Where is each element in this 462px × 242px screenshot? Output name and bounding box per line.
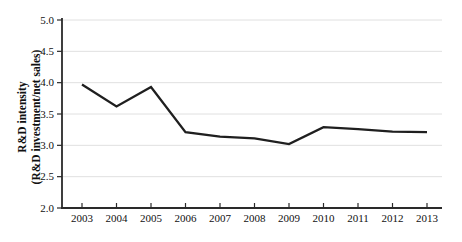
y-tick-label: 3.0 <box>40 139 54 151</box>
x-tick-label: 2003 <box>71 212 94 224</box>
y-tick-label: 5.0 <box>40 14 54 26</box>
x-tick-label: 2006 <box>175 212 198 224</box>
y-tick-label: 3.5 <box>40 108 54 120</box>
y-tick-label: 4.0 <box>40 76 54 88</box>
y-tick-label: 2.5 <box>40 170 54 182</box>
y-tick-label: 4.5 <box>40 45 54 57</box>
x-tick-label: 2007 <box>209 212 232 224</box>
y-axis-tick-labels: 5.04.54.03.53.02.52.0 <box>40 14 54 214</box>
x-tick-label: 2012 <box>382 212 404 224</box>
line-chart: 5.04.54.03.53.02.52.0 200320042005200620… <box>0 0 462 242</box>
x-tick-label: 2009 <box>278 212 301 224</box>
x-tick-label: 2013 <box>416 212 439 224</box>
x-axis-tick-labels: 2003200420052006200720082009201020112012… <box>71 212 439 224</box>
x-tick-label: 2005 <box>140 212 163 224</box>
x-tick-label: 2010 <box>313 212 336 224</box>
x-tick-label: 2008 <box>244 212 267 224</box>
chart-figure: R&D intensity (R&D investment/net sales)… <box>0 0 462 242</box>
x-tick-label: 2011 <box>347 212 369 224</box>
x-tick-label: 2004 <box>106 212 129 224</box>
gridlines <box>62 20 442 177</box>
y-tick-label: 2.0 <box>40 202 54 214</box>
